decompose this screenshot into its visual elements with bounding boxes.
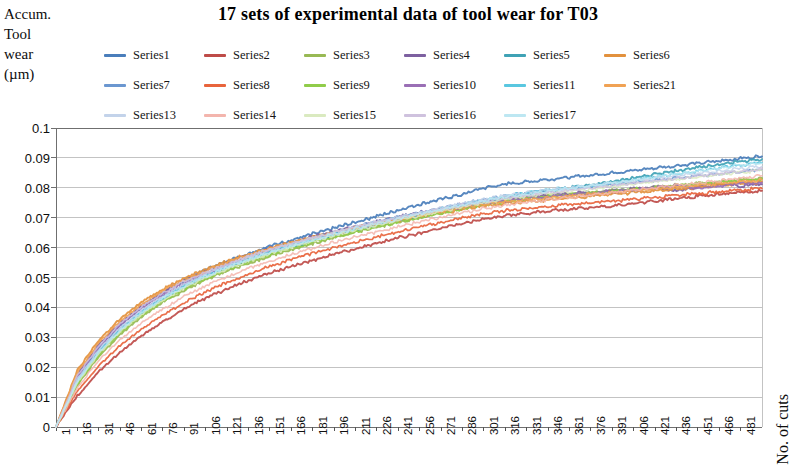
x-axis-tick-label: 46: [124, 423, 136, 435]
x-axis-tick-label: 376: [595, 416, 607, 435]
x-axis-tick-label: 256: [424, 416, 436, 435]
x-axis-tick-label: 346: [552, 416, 564, 435]
x-axis-tick-label: 61: [146, 423, 158, 435]
x-axis-tick-label: 421: [659, 416, 671, 435]
x-axis-tick-label: 151: [274, 416, 286, 435]
x-axis-tick-label: 301: [488, 416, 500, 435]
x-axis-tick-label: 361: [573, 416, 585, 435]
x-axis-tick-label: 196: [338, 416, 350, 435]
x-axis-tick-label: 286: [466, 416, 478, 435]
x-axis-tick-label: 16: [81, 423, 93, 435]
x-axis-tick-label: 106: [210, 416, 222, 435]
x-axis-tick-label: 316: [509, 416, 521, 435]
x-axis-tick-labels: 1163146617691106121136151166181196211226…: [0, 0, 794, 469]
x-axis-tick-label: 121: [231, 416, 243, 435]
x-axis-tick-label: 31: [103, 423, 115, 435]
chart-container: Accum. Tool wear (µm) 17 sets of experim…: [0, 0, 794, 469]
x-axis-tick-label: 76: [167, 423, 179, 435]
x-axis-tick-label: 451: [702, 416, 714, 435]
x-axis-tick-label: 1: [60, 429, 72, 435]
x-axis-tick-label: 481: [745, 416, 757, 435]
x-axis-tick-label: 466: [723, 416, 735, 435]
x-axis-tick-label: 211: [360, 417, 372, 435]
x-axis-tick-label: 331: [531, 416, 543, 435]
x-axis-tick-label: 271: [445, 416, 457, 435]
x-axis-tick-label: 391: [616, 416, 628, 435]
x-axis-tick-label: 166: [295, 416, 307, 435]
x-axis-tick-label: 241: [402, 416, 414, 435]
x-axis-tick-label: 136: [253, 416, 265, 435]
x-axis-tick-label: 436: [680, 416, 692, 435]
x-axis-tick-label: 226: [381, 416, 393, 435]
x-axis-title: No. of cuts: [774, 394, 792, 465]
x-axis-tick-label: 406: [638, 416, 650, 435]
x-axis-tick-label: 181: [317, 416, 329, 435]
x-axis-tick-label: 91: [188, 423, 200, 435]
